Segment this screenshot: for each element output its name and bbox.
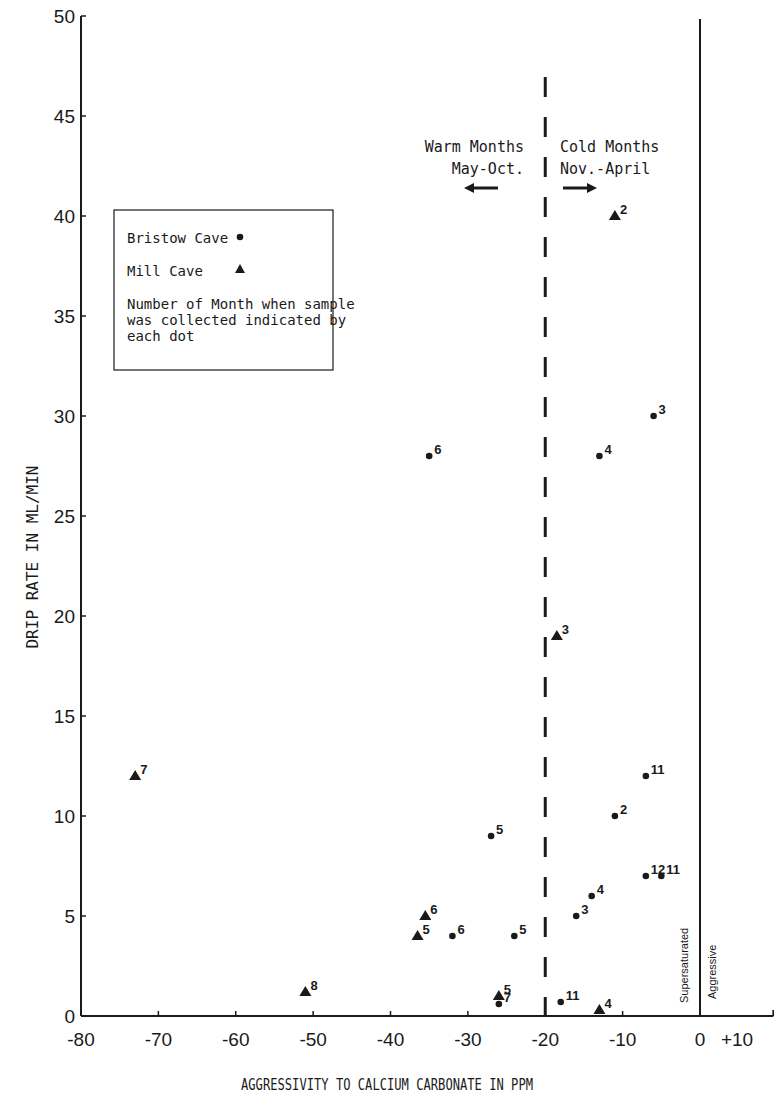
bristow-cave-point: 2 (612, 802, 628, 819)
month-label: 6 (457, 922, 464, 937)
month-label: 5 (504, 982, 511, 997)
circle-marker-icon (643, 873, 650, 880)
supersaturated-label: Supersaturated (678, 928, 690, 1003)
bristow-cave-point: 11 (643, 762, 665, 779)
y-tick-label: 15 (54, 706, 75, 727)
month-label: 6 (430, 902, 437, 917)
legend-note-line: was collected indicated by (127, 312, 346, 328)
y-tick-label: 25 (54, 506, 75, 527)
x-tick-label: +10 (721, 1029, 753, 1050)
bristow-cave-point: 5 (511, 922, 527, 939)
y-tick-label: 40 (54, 206, 75, 227)
bristow-cave-point: 5 (488, 822, 504, 839)
month-label: 11 (651, 762, 665, 777)
y-tick-label: 0 (64, 1006, 75, 1027)
mill-cave-point: 5 (412, 922, 430, 940)
circle-marker-icon (511, 933, 518, 940)
circle-marker-icon (496, 1001, 503, 1008)
x-axis-title: AGGRESSIVITY TO CALCIUM CARBONATE IN PPM (241, 1075, 533, 1094)
circle-marker-icon (612, 813, 619, 820)
month-label: 3 (659, 402, 666, 417)
bristow-cave-point: 3 (573, 902, 589, 919)
x-tick-label: -20 (532, 1029, 559, 1050)
circle-marker-icon (588, 893, 595, 900)
y-tick-label: 45 (54, 106, 75, 127)
mill-cave-point: 2 (609, 202, 627, 220)
legend-note-line: each dot (127, 328, 194, 344)
right-arrow-icon (563, 183, 597, 193)
y-tick-label: 30 (54, 406, 75, 427)
warm-months-range: May-Oct. (452, 160, 524, 178)
x-tick-label: 0 (695, 1029, 706, 1050)
scatter-chart: 05101520253035404550-80-70-60-50-40-30-2… (0, 0, 774, 1104)
x-tick-label: -70 (145, 1029, 172, 1050)
y-tick-label: 35 (54, 306, 75, 327)
month-label: 3 (562, 622, 569, 637)
legend: Bristow CaveMill CaveNumber of Month whe… (114, 210, 355, 370)
y-tick-label: 20 (54, 606, 75, 627)
x-tick-label: -30 (454, 1029, 481, 1050)
circle-marker-icon (658, 873, 665, 880)
month-label: 8 (310, 978, 317, 993)
bristow-cave-point: 6 (449, 922, 465, 939)
circle-marker-icon (650, 413, 657, 420)
month-label: 5 (496, 822, 503, 837)
aggressive-label: Aggressive (706, 945, 718, 999)
month-label: 4 (604, 996, 612, 1011)
month-label: 11 (566, 988, 580, 1003)
circle-marker-icon (449, 933, 456, 940)
legend-circle-icon (237, 234, 244, 241)
circle-marker-icon (426, 453, 433, 460)
bristow-cave-point: 4 (596, 442, 612, 459)
month-label: 11 (666, 862, 680, 877)
mill-cave-point: 6 (419, 902, 437, 920)
circle-marker-icon (596, 453, 603, 460)
x-tick-label: -60 (222, 1029, 249, 1050)
x-tick-label: -40 (377, 1029, 404, 1050)
legend-note-line: Number of Month when sample (127, 296, 355, 312)
x-tick-label: -80 (67, 1029, 94, 1050)
mill-cave-point: 4 (593, 996, 612, 1014)
month-label: 3 (581, 902, 588, 917)
circle-marker-icon (643, 773, 650, 780)
circle-marker-icon (557, 999, 564, 1006)
y-tick-label: 50 (54, 6, 75, 27)
mill-cave-point: 8 (299, 978, 317, 996)
bristow-cave-point: 6 (426, 442, 442, 459)
legend-mill-label: Mill Cave (127, 263, 203, 279)
bristow-cave-point: 4 (588, 882, 604, 899)
y-tick-label: 10 (54, 806, 75, 827)
month-label: 4 (597, 882, 605, 897)
month-label: 6 (434, 442, 441, 457)
circle-marker-icon (573, 913, 580, 920)
y-tick-label: 5 (64, 906, 75, 927)
month-label: 2 (620, 802, 627, 817)
bristow-cave-point: 3 (650, 402, 666, 419)
y-axis-title: DRIP RATE IN ML/MIN (23, 465, 42, 648)
month-label: 5 (423, 922, 430, 937)
circle-marker-icon (488, 833, 495, 840)
month-label: 2 (620, 202, 627, 217)
axes: 05101520253035404550-80-70-60-50-40-30-2… (23, 6, 773, 1094)
bristow-cave-point: 11 (557, 988, 579, 1005)
left-arrow-icon (464, 183, 498, 193)
cold-months-range: Nov.-April (560, 160, 650, 178)
month-label: 7 (140, 762, 147, 777)
x-tick-label: -10 (609, 1029, 636, 1050)
legend-bristow-label: Bristow Cave (127, 230, 228, 246)
month-label: 5 (519, 922, 526, 937)
mill-cave-point: 7 (129, 762, 147, 780)
warm-months-label: Warm Months (425, 138, 524, 156)
x-tick-label: -50 (299, 1029, 326, 1050)
month-label: 4 (604, 442, 612, 457)
cold-months-label: Cold Months (560, 138, 659, 156)
mill-cave-point: 3 (551, 622, 569, 640)
